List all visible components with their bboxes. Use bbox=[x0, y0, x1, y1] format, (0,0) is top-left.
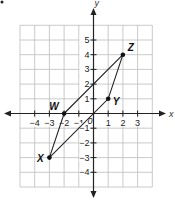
x-tick-label: −4 bbox=[30, 118, 40, 128]
point-w bbox=[62, 111, 67, 116]
x-tick-label: 3 bbox=[135, 118, 140, 128]
tick-labels: −4−3−2−112354321−1−2−3−40 bbox=[29, 35, 144, 177]
point-y bbox=[106, 97, 111, 102]
point-label-z: Z bbox=[127, 42, 135, 53]
point-x bbox=[47, 155, 52, 160]
x-axis-right-arrow-icon bbox=[159, 111, 166, 117]
point-label-x: X bbox=[36, 153, 45, 164]
y-tick-label: 3 bbox=[84, 64, 89, 74]
y-tick-label: 2 bbox=[84, 79, 89, 89]
x-tick-label: −3 bbox=[44, 118, 54, 128]
x-axis-label: x bbox=[168, 109, 174, 119]
y-tick-label: 5 bbox=[84, 35, 89, 45]
x-tick-label: 1 bbox=[106, 118, 111, 128]
y-tick-label: 1 bbox=[84, 94, 89, 104]
point-label-w: W bbox=[49, 101, 60, 112]
y-tick-label: −3 bbox=[79, 153, 89, 163]
y-axis-label: y bbox=[94, 0, 100, 8]
y-axis-bottom-arrow-icon bbox=[91, 191, 97, 198]
x-axis-left-arrow-icon bbox=[4, 111, 11, 117]
y-axis-top-arrow-icon bbox=[91, 8, 97, 15]
y-tick-label: −2 bbox=[79, 138, 89, 148]
y-tick-label: −4 bbox=[79, 167, 89, 177]
bullet-marker bbox=[1, 1, 4, 4]
point-z bbox=[121, 52, 126, 57]
x-tick-label: 2 bbox=[120, 118, 125, 128]
y-tick-label: 4 bbox=[84, 50, 89, 60]
coordinate-plane: xy −4−3−2−112354321−1−2−3−40 WXYZ bbox=[0, 0, 175, 200]
point-label-y: Y bbox=[113, 96, 121, 107]
